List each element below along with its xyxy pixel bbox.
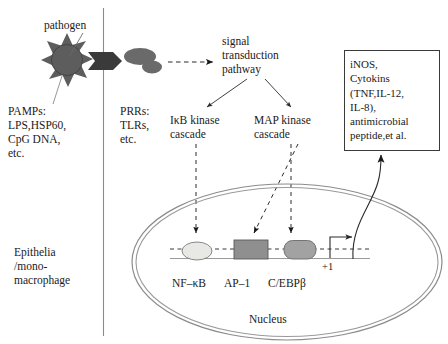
signaling-pathway-diagram: pathogen PAMPs: LPS,HSP60, CpG DNA, etc.…	[0, 0, 448, 344]
signal-to-ikb-arrow	[207, 79, 247, 107]
cell-type-label: Epithelia /mono- macrophage	[14, 245, 70, 287]
tf-label-ap-1: AP–1	[224, 276, 250, 290]
signal-to-map-arrow	[265, 79, 291, 107]
ikb-kinase-cascade-label: IκB kinase cascade	[170, 113, 220, 141]
nucleus-label: Nucleus	[249, 312, 287, 326]
tf-shape-c-ebp-beta	[284, 241, 316, 260]
prr-receptor-icon	[124, 48, 162, 74]
nucleus-membrane	[132, 184, 442, 340]
pathogen-recognition-arrow	[88, 52, 122, 70]
tf-label-c-ebp-beta: C/EBPβ	[268, 276, 306, 290]
product-output-arrow	[353, 155, 381, 259]
pathogen-label: pathogen	[44, 18, 86, 32]
tf-shape-ap-1	[234, 240, 268, 259]
transcription-start-arrow	[330, 237, 352, 258]
tf-label-nf-kb: NF–κB	[172, 276, 206, 290]
gene-products-label: iNOS, Cytokins (TNF,IL-12, IL-8), antimi…	[350, 57, 409, 143]
signal-transduction-pathway-label: signal transduction pathway	[222, 34, 279, 76]
transcription-start-site-label: +1	[322, 261, 333, 274]
pathogen-icon	[41, 33, 93, 87]
map-kinase-cascade-label: MAP kinase cascade	[254, 113, 311, 141]
tf-shape-nf-kb	[182, 242, 212, 260]
pamps-label: PAMPs: LPS,HSP60, CpG DNA, etc.	[8, 104, 66, 160]
prrs-label: PRRs: TLRs, etc.	[120, 104, 149, 146]
pamps-leader-line	[53, 76, 62, 104]
